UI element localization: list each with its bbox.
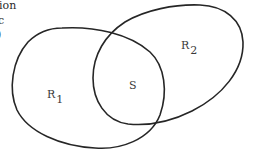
intersection-label: S — [129, 80, 137, 91]
region-r1-outline — [12, 28, 164, 149]
region-r1-label: R1 — [47, 89, 62, 100]
region-r2-outline — [93, 5, 243, 125]
region-r2-label: R2 — [181, 40, 196, 51]
region-r1-letter: R — [47, 88, 55, 101]
region-r2-subscript: 2 — [190, 44, 197, 57]
region-r1-subscript: 1 — [56, 93, 63, 106]
region-r2-letter: R — [181, 39, 189, 52]
